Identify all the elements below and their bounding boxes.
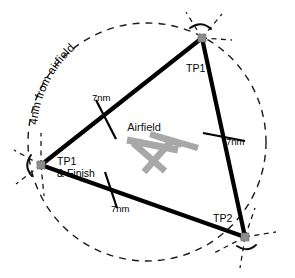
airfield-label: Airfield [127,121,161,133]
leg-right-distance-label: 7nm [226,136,245,147]
tp1-top-label: TP1 [186,62,205,74]
tp2-label: TP2 [213,212,232,224]
tp1-finish-label-line2: & Finish [57,167,95,179]
diagram-canvas: 4nm from airfield TP1 TP1 & Finish TP2 A… [0,0,295,278]
tp1-top-turn-arc [190,24,211,29]
tp1-top-marker [198,34,206,42]
airfield-symbol [127,134,198,172]
tp2-marker [241,233,249,241]
circle-label: 4nm from airfield [27,41,76,125]
tp1-finish-label-line1: TP1 [57,155,76,167]
leg-left-distance-label: 7nm [92,92,111,103]
tp2-turn-arc [237,245,256,249]
navigation-diagram: 4nm from airfield TP1 TP1 & Finish TP2 A… [0,0,295,278]
leg-bottom-distance-label: 7nm [111,203,130,214]
tp1-finish-marker [37,161,45,169]
